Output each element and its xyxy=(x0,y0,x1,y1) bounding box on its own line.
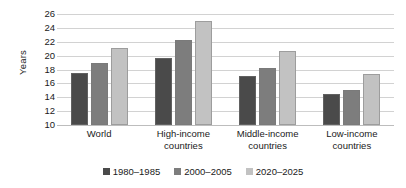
bar-group xyxy=(141,14,225,125)
legend-item[interactable]: 2020–2025 xyxy=(246,166,304,177)
bar[interactable] xyxy=(239,76,256,125)
bar[interactable] xyxy=(175,40,192,125)
y-axis-tick-label: 26 xyxy=(44,9,55,19)
x-axis-category-label: Low-incomecountries xyxy=(310,128,394,152)
bar[interactable] xyxy=(323,94,340,125)
plot-area xyxy=(57,14,394,125)
legend-swatch-icon xyxy=(103,168,110,175)
legend-swatch-icon xyxy=(246,168,253,175)
y-axis-tick-label: 22 xyxy=(44,37,55,47)
legend-label: 1980–1985 xyxy=(113,166,161,177)
bar[interactable] xyxy=(259,68,276,125)
bar[interactable] xyxy=(71,73,88,125)
legend-label: 2000–2005 xyxy=(184,166,232,177)
y-axis-tick-labels: 262422201816141210 xyxy=(30,14,55,125)
legend: 1980–19852000–20052020–2025 xyxy=(0,166,406,177)
y-axis-title: Years xyxy=(14,0,30,125)
bar-group xyxy=(57,14,141,125)
y-axis-tick-label: 14 xyxy=(44,93,55,103)
bar-group xyxy=(310,14,394,125)
bar[interactable] xyxy=(343,90,360,125)
legend-item[interactable]: 2000–2005 xyxy=(174,166,232,177)
y-axis-tick-label: 16 xyxy=(44,79,55,89)
bar[interactable] xyxy=(363,74,380,125)
gridline xyxy=(57,125,394,126)
legend-item[interactable]: 1980–1985 xyxy=(103,166,161,177)
bar-groups xyxy=(57,14,394,125)
x-axis-category-label: World xyxy=(57,128,141,152)
bar-group xyxy=(226,14,310,125)
y-axis-tick-label: 18 xyxy=(44,65,55,75)
bar[interactable] xyxy=(155,58,172,125)
bar-chart: Years 262422201816141210 WorldHigh-incom… xyxy=(0,0,406,188)
x-axis-category-label: Middle-incomecountries xyxy=(226,128,310,152)
y-axis-tick-label: 24 xyxy=(44,23,55,33)
legend-swatch-icon xyxy=(174,168,181,175)
x-axis-category-labels: WorldHigh-incomecountriesMiddle-incomeco… xyxy=(57,128,394,152)
bar[interactable] xyxy=(195,21,212,125)
bar[interactable] xyxy=(91,63,108,125)
bar[interactable] xyxy=(279,51,296,125)
y-axis-tick-label: 12 xyxy=(44,106,55,116)
y-axis-title-label: Years xyxy=(17,50,28,75)
bar[interactable] xyxy=(111,48,128,125)
y-axis-tick-label: 10 xyxy=(44,120,55,130)
y-axis-tick-label: 20 xyxy=(44,51,55,61)
legend-label: 2020–2025 xyxy=(256,166,304,177)
x-axis-category-label: High-incomecountries xyxy=(141,128,225,152)
